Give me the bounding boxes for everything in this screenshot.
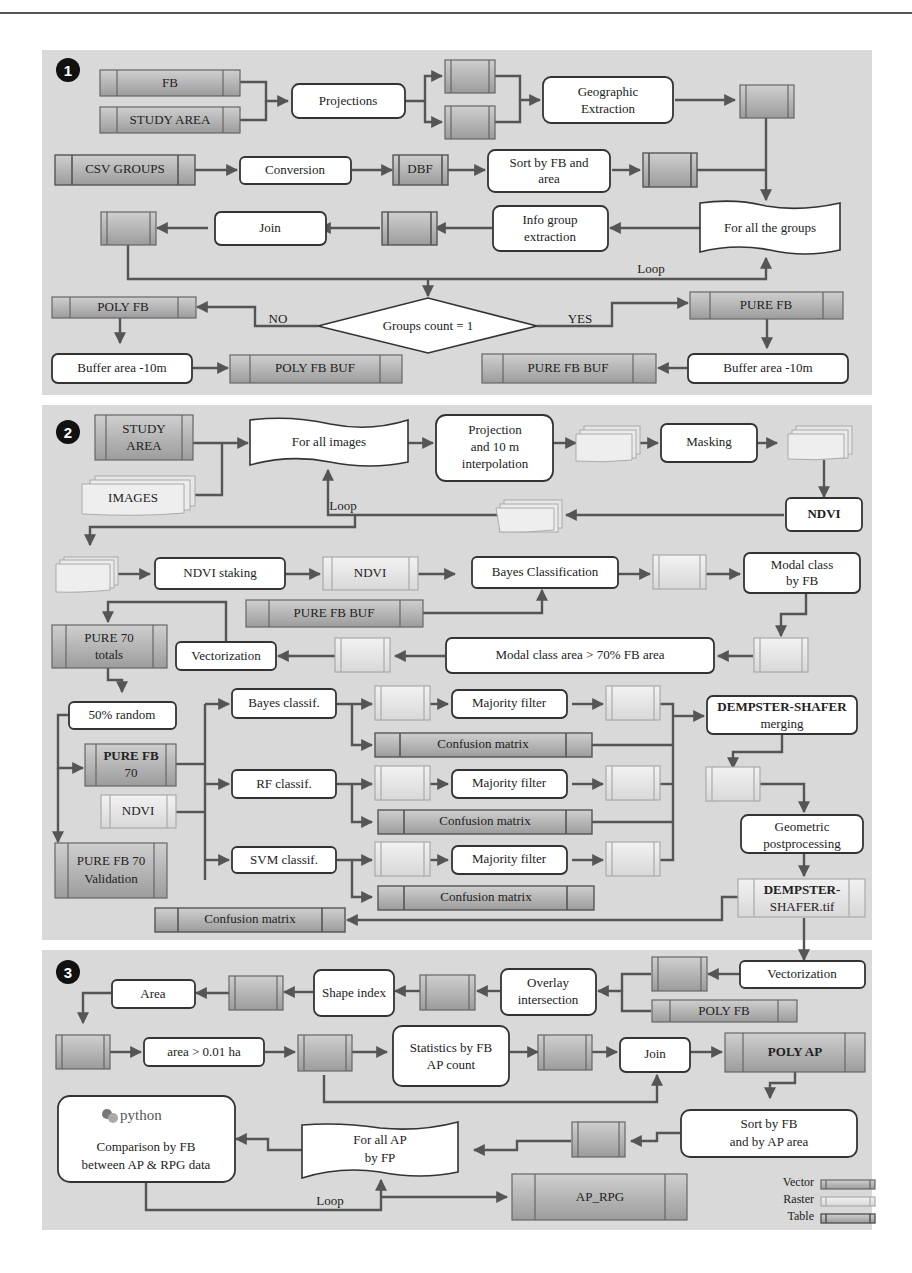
svg-text:1: 1 <box>64 62 72 79</box>
loop-for-all-groups: For all the groups <box>700 201 840 254</box>
legend-vector-swatch <box>821 1180 875 1189</box>
legend-table-label: Table <box>788 1209 814 1223</box>
svg-text:PURE FB BUF: PURE FB BUF <box>528 360 609 375</box>
vector-poly-fb: POLY FB <box>52 297 196 318</box>
svg-text:PURE FB 70: PURE FB 70 <box>77 853 146 868</box>
process-area: Area <box>112 980 195 1008</box>
vector-extracted <box>740 85 794 118</box>
raster-svm-filtered <box>606 842 660 876</box>
svg-text:Buffer area -10m: Buffer area -10m <box>77 360 166 375</box>
vector-projected-2 <box>445 106 495 139</box>
process-projection-interpolation: Projection and 10 m interpolation <box>436 415 553 481</box>
vector-study-area-2: STUDY AREA <box>95 415 193 460</box>
svg-text:Sort by FB: Sort by FB <box>740 1116 797 1131</box>
panel-1-badge: 1 <box>56 58 80 82</box>
workflow-diagram: 1 2 3 FB STUDY AREA <box>0 0 912 1273</box>
svg-text:Bayes Classification: Bayes Classification <box>492 564 599 579</box>
svg-text:Projections: Projections <box>319 93 378 108</box>
table-confusion-matrix-2: Confusion matrix <box>378 810 592 834</box>
raster-rf-filtered <box>606 766 660 800</box>
svg-text:AP count: AP count <box>427 1057 476 1072</box>
table-sorted <box>643 153 697 187</box>
svg-text:DEMPSTER-SHAFER: DEMPSTER-SHAFER <box>717 699 847 714</box>
raster-stack-ndvi <box>496 500 562 532</box>
svg-text:Info group: Info group <box>522 212 577 227</box>
svg-text:Modal class area > 70% FB area: Modal class area > 70% FB area <box>495 647 664 662</box>
vector-pure-fb: PURE FB <box>690 292 843 319</box>
svg-text:and by AP area: and by AP area <box>730 1134 809 1149</box>
table-confusion-matrix-3: Confusion matrix <box>378 886 594 910</box>
process-geometric-postprocessing: Geometric postprocessing <box>741 815 863 853</box>
svg-text:between AP & RPG data: between AP & RPG data <box>82 1157 211 1172</box>
vector-poly-fb-3: POLY FB <box>652 1000 797 1022</box>
svg-text:area: area <box>538 171 560 186</box>
vector-sorted-ap <box>572 1122 625 1157</box>
process-majority-filter-3: Majority filter <box>452 846 567 874</box>
process-area-filter: area > 0.01 ha <box>144 1038 264 1066</box>
vector-pure-fb-buf: PURE FB BUF <box>482 354 656 383</box>
vector-fb: FB <box>100 70 240 96</box>
svg-text:Area: Area <box>140 986 165 1001</box>
svg-text:IMAGES: IMAGES <box>108 490 158 505</box>
raster-modal-by-fb <box>754 638 808 672</box>
vector-overlay-result <box>420 975 475 1010</box>
svg-text:Extraction: Extraction <box>581 101 636 116</box>
svg-text:NDVI staking: NDVI staking <box>183 565 257 580</box>
svg-text:Validation: Validation <box>84 871 138 886</box>
svg-text:PURE 70: PURE 70 <box>84 630 133 645</box>
process-vectorization-2: Vectorization <box>176 642 276 670</box>
process-geographic-extraction: Geographic Extraction <box>543 77 673 123</box>
svg-text:70: 70 <box>125 765 138 780</box>
panel-3-badge: 3 <box>56 960 80 984</box>
process-bayes-classif: Bayes classif. <box>232 689 336 718</box>
vector-pure-70-totals: PURE 70 totals <box>52 625 167 668</box>
raster-modal <box>335 638 390 672</box>
svg-text:Geographic: Geographic <box>578 84 639 99</box>
svg-text:Statistics by FB: Statistics by FB <box>410 1040 493 1055</box>
vector-projected-1 <box>445 60 495 93</box>
process-sort-fb-ap: Sort by FB and by AP area <box>681 1110 857 1157</box>
svg-text:Confusion matrix: Confusion matrix <box>439 813 531 828</box>
raster-stack-ndvi-all <box>56 557 118 592</box>
vector-pure-fb-buf-2: PURE FB BUF <box>246 600 423 627</box>
process-majority-filter-1: Majority filter <box>452 690 567 718</box>
svg-text:CSV GROUPS: CSV GROUPS <box>85 161 165 176</box>
table-dbf: DBF <box>393 155 448 185</box>
raster-ndvi-stack: NDVI <box>323 557 418 590</box>
vector-poly-fb-buf: POLY FB BUF <box>230 355 402 383</box>
label-yes: YES <box>568 311 593 326</box>
raster-stack-images: IMAGES <box>82 476 195 515</box>
svg-text:STUDY AREA: STUDY AREA <box>130 112 211 127</box>
process-projections: Projections <box>292 84 405 118</box>
svg-text:RF classif.: RF classif. <box>256 776 312 791</box>
svg-text:POLY AP: POLY AP <box>768 1044 822 1059</box>
process-buffer-right: Buffer area -10m <box>688 354 848 383</box>
process-buffer-left: Buffer area -10m <box>52 354 192 383</box>
process-shape-index: Shape index <box>314 970 394 1016</box>
svg-text:Majority filter: Majority filter <box>472 775 547 790</box>
raster-stack-projected <box>576 426 640 462</box>
svg-text:by FB: by FB <box>786 573 818 588</box>
process-join-3: Join <box>620 1038 690 1072</box>
process-svm-classif: SVM classif. <box>232 847 336 873</box>
process-majority-filter-2: Majority filter <box>452 770 567 798</box>
svg-text:Majority filter: Majority filter <box>472 851 547 866</box>
svg-text:Groups count = 1: Groups count = 1 <box>383 318 474 333</box>
vector-vectorized <box>652 957 707 991</box>
table-confusion-matrix-final: Confusion matrix <box>155 908 345 932</box>
svg-text:STUDY: STUDY <box>122 421 166 436</box>
svg-text:For all AP: For all AP <box>353 1132 406 1147</box>
loop-for-all-ap: For all AP by FP <box>302 1122 458 1178</box>
svg-text:NDVI: NDVI <box>354 565 387 580</box>
svg-text:FB: FB <box>162 75 178 90</box>
table-confusion-matrix-1: Confusion matrix <box>375 733 592 757</box>
svg-text:extraction: extraction <box>524 229 576 244</box>
svg-text:Modal class: Modal class <box>771 557 833 572</box>
svg-text:Bayes classif.: Bayes classif. <box>248 695 319 710</box>
svg-text:Shape index: Shape index <box>322 985 386 1000</box>
table-group-info <box>382 212 437 245</box>
svg-text:postprocessing: postprocessing <box>763 836 841 851</box>
svg-text:Sort by FB and: Sort by FB and <box>509 155 589 170</box>
svg-text:Projection: Projection <box>468 422 522 437</box>
vector-joined <box>101 212 156 245</box>
